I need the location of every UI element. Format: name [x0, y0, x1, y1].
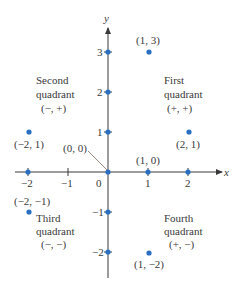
x-tick-label: 0 [96, 177, 102, 189]
x-tick-label: 1 [145, 177, 151, 189]
point-2-1 [186, 129, 191, 134]
svg-text:quadrant: quadrant [164, 225, 202, 237]
point-0-2 [105, 89, 110, 94]
point-0-neg2 [105, 249, 110, 254]
point-label-2-1: (2, 1) [176, 138, 200, 151]
first-quadrant-label: First quadrant (+, +) [164, 74, 202, 115]
y-axis-label: y [103, 12, 109, 24]
point-1-neg2 [146, 250, 151, 255]
x-tick-label: −2 [21, 177, 33, 189]
svg-text:quadrant: quadrant [36, 88, 74, 100]
point-0-neg1 [105, 209, 110, 214]
svg-text:Third: Third [36, 212, 61, 224]
point-label-neg2-1: (−2, 1) [14, 138, 44, 151]
point-label-0-0: (0, 0) [63, 142, 87, 155]
x-tick-label: −1 [61, 177, 73, 189]
y-tick-label: 2 [97, 86, 103, 98]
svg-text:Second: Second [36, 74, 69, 86]
point-2-0 [185, 169, 190, 174]
svg-text:(+, +): (+, +) [167, 102, 193, 115]
svg-text:First: First [164, 74, 184, 86]
second-quadrant-label: Second quadrant (−, +) [36, 74, 74, 115]
point-neg2-1 [26, 129, 31, 134]
fourth-quadrant-label: Fourth quadrant (+, −) [164, 212, 202, 251]
x-tick-label: 2 [185, 177, 191, 189]
y-tick-label: 1 [97, 126, 103, 138]
point-label-1-0: (1, 0) [136, 154, 160, 167]
point-label-neg2-neg1: (−2, −1) [14, 195, 51, 208]
point-label-1-3: (1, 3) [136, 34, 160, 47]
point-label-1-neg2-text: (1, −2) [134, 258, 164, 271]
third-quadrant-label: Third quadrant (−, −) [36, 212, 74, 251]
point-0-3 [105, 49, 110, 54]
point-neg2-neg1 [26, 209, 31, 214]
point-1-0 [145, 169, 150, 174]
svg-text:(−, +): (−, +) [41, 102, 67, 115]
svg-text:quadrant: quadrant [164, 88, 202, 100]
coordinate-plane-diagram: x y −2 −1 0 1 2 3 2 1 −1 −2 [0, 0, 233, 284]
point-0-1 [105, 129, 110, 134]
y-tick-label: −2 [92, 246, 104, 258]
origin-leader-line [88, 151, 107, 170]
svg-text:quadrant: quadrant [36, 225, 74, 237]
y-tick-label: 3 [97, 46, 103, 58]
svg-text:Fourth: Fourth [164, 212, 194, 224]
y-tick-label: −1 [92, 206, 104, 218]
x-axis-label: x [223, 166, 229, 178]
svg-text:(+, −): (+, −) [169, 238, 195, 251]
svg-text:(−, −): (−, −) [41, 238, 67, 251]
point-origin [105, 169, 110, 174]
point-neg2-0 [25, 169, 30, 174]
point-1-3 [146, 49, 151, 54]
